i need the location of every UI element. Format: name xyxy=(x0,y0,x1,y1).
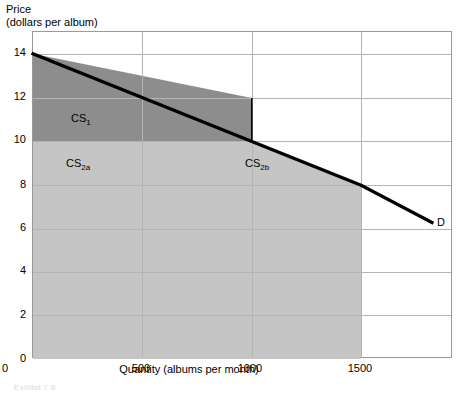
demand-line-label: D xyxy=(437,216,445,228)
y-tick-2: 2 xyxy=(4,308,26,320)
y-axis-title-line1: Price xyxy=(6,3,31,15)
plot-area: CS1 CS2a CS2b D xyxy=(32,31,452,358)
region-label-cs2b: CS2b xyxy=(245,157,269,172)
y-tick-10: 10 xyxy=(4,133,26,145)
y-tick-4: 4 xyxy=(4,264,26,276)
y-tick-6: 6 xyxy=(4,221,26,233)
y-tick-8: 8 xyxy=(4,178,26,190)
y-axis-title: Price(dollars per album) xyxy=(6,3,98,29)
y-tick-12: 12 xyxy=(4,90,26,102)
figure-caption: Exhibit 7.6 xyxy=(14,383,56,392)
chart-figure: Price(dollars per album) xyxy=(0,0,463,395)
y-axis-title-line2: (dollars per album) xyxy=(6,16,98,28)
region-label-cs2a: CS2a xyxy=(66,157,90,172)
demand-curve xyxy=(33,32,453,359)
region-label-cs1: CS1 xyxy=(71,112,91,127)
y-tick-14: 14 xyxy=(4,46,26,58)
x-axis-title: Quantity (albums per month) xyxy=(0,363,378,376)
